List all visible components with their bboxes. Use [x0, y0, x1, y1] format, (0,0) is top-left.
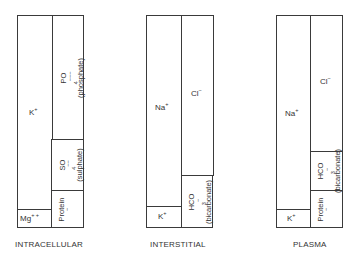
intracellular-caption: INTRACELLULAR: [15, 240, 83, 249]
ion-charge: −−: [65, 160, 71, 166]
ion-note: (phosphate): [77, 43, 86, 113]
ic-so4-label: SO4−− (sulphate): [59, 138, 77, 193]
interstitial-caption: INTERSTITIAL: [150, 240, 206, 249]
ion-charge: −: [328, 75, 331, 81]
pl-na-label: Na+: [285, 109, 298, 118]
pl-protein-label: Protein−: [317, 190, 326, 230]
ion-symbol: Na: [155, 103, 165, 112]
pl-k-label: K+: [287, 214, 296, 223]
ion-charge: −: [199, 87, 202, 93]
ion-charge: −: [194, 199, 200, 202]
plasma-caption: PLASMA: [293, 240, 327, 249]
ion-charge: +: [292, 212, 295, 218]
ic-k-label: K+: [29, 108, 38, 117]
ion-charge: +: [295, 107, 298, 113]
ion-note: (sulphate): [76, 138, 85, 193]
ion-note: (bicarbonate): [334, 141, 343, 201]
ic-po4-label: PO4−−− (phosphate): [60, 43, 78, 113]
ion-charge: +: [34, 106, 37, 112]
is-hco3-label: HCO3− (bicarbonate): [188, 172, 206, 232]
ion-symbol: Cl: [320, 77, 328, 86]
ion-charge: +: [163, 210, 166, 216]
ion-charge: −−−: [66, 72, 72, 82]
ion-charge: −: [323, 168, 329, 171]
ion-symbol: Mg: [20, 214, 31, 223]
is-k-label: K+: [158, 212, 167, 221]
is-na-label: Na+: [155, 103, 168, 112]
ion-symbol: Na: [285, 109, 295, 118]
ic-protein-label: Protein−: [58, 190, 67, 230]
pl-cl-label: Cl−: [320, 77, 331, 86]
ion-charge: +: [165, 101, 168, 107]
ion-symbol: Cl: [191, 89, 199, 98]
ion-charge: −: [64, 208, 70, 211]
ion-charge: −: [323, 208, 329, 211]
ion-note: (bicarbonate): [205, 172, 214, 232]
ion-charge: + +: [31, 212, 39, 218]
ic-mg-label: Mg+ +: [20, 214, 39, 223]
is-cl-label: Cl−: [191, 89, 202, 98]
